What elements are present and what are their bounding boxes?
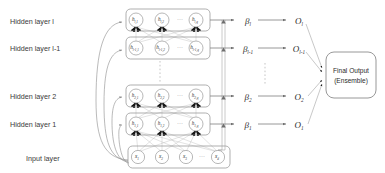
output-l-1: Ol-1 [293, 44, 306, 55]
final-output-box: Final Output (Ensemble) [326, 52, 376, 98]
layer-label-input: Input layer [26, 154, 60, 163]
figure-canvas: Hidden layer l Hidden layer l-1 Hidden l… [0, 0, 385, 173]
ensemble-arrows [306, 24, 322, 124]
hidden-node: h2,q [189, 89, 203, 103]
skip-arrow-to-hidden-1 [119, 125, 129, 163]
input-node: xd [211, 150, 224, 163]
hidden-node: h1,2 [155, 117, 169, 131]
output-1: O1 [294, 120, 304, 131]
skip-arrow-to-hidden-l-1 [104, 50, 128, 161]
input-layer-ellipsis: ··· [199, 154, 205, 160]
input-layer: x1 x2 x3 ··· xd [128, 146, 230, 168]
skip-arrow-to-hidden-l [96, 22, 128, 160]
hidden-node: hl-1,1 [129, 41, 143, 55]
beta-l-1: βl-1 [242, 44, 254, 55]
hidden-node: hl,2 [155, 13, 169, 27]
final-output-line2: (Ensemble) [334, 77, 368, 85]
layer-label-group: Hidden layer l Hidden layer l-1 Hidden l… [10, 17, 60, 163]
beta-2: β2 [243, 92, 251, 103]
network-diagram: Hidden layer l Hidden layer l-1 Hidden l… [0, 0, 385, 173]
layer-label-hidden-1: Hidden layer 1 [10, 120, 56, 129]
hidden-node: h1,1 [129, 117, 143, 131]
hidden-node: h2,2 [155, 89, 169, 103]
skip-arrow-to-hidden-2 [112, 97, 128, 162]
layer-label-hidden-l-1: Hidden layer l-1 [10, 44, 60, 53]
ensemble-arrow-1 [308, 84, 322, 124]
beta-labels: βl βl-1 β2 β1 [242, 16, 254, 131]
beta-l: βl [244, 16, 251, 27]
output-bus [218, 20, 225, 150]
ensemble-arrow-l [306, 24, 322, 68]
hidden-layer-2-ellipsis: ··· [177, 93, 183, 99]
output-l: Ol [295, 16, 304, 27]
hidden-node: hl,q [189, 13, 203, 27]
ensemble-arrow-2 [308, 80, 322, 96]
hidden-node: h2,1 [129, 89, 143, 103]
skip-connection-arrows [96, 22, 129, 163]
hidden-node: h1,q [189, 117, 203, 131]
hidden-node: hl-1,2 [155, 41, 169, 55]
beta-1: β1 [243, 120, 251, 131]
final-output-line1: Final Output [333, 67, 369, 75]
hidden-node: hl,1 [129, 13, 143, 27]
output-2: O2 [294, 92, 304, 103]
layer-label-hidden-l: Hidden layer l [10, 17, 54, 26]
input-node: x3 [179, 150, 192, 163]
beta-to-output-arrows [258, 20, 286, 124]
output-labels: Ol Ol-1 O2 O1 [293, 16, 306, 131]
hidden-layer-l-ellipsis: ··· [177, 17, 183, 23]
input-node: x1 [131, 150, 144, 163]
hidden-layer-1-ellipsis: ··· [177, 121, 183, 127]
input-node: x2 [155, 150, 168, 163]
hidden-layer-l-1-ellipsis: ··· [177, 45, 183, 51]
layer-label-hidden-2: Hidden layer 2 [10, 92, 56, 101]
hidden-node: hl-1,q [189, 41, 203, 55]
